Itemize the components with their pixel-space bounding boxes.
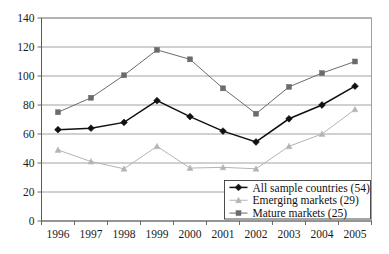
data-point-marker-square	[89, 95, 94, 100]
data-point-marker-diamond	[88, 125, 95, 132]
legend-label: Mature markets (25)	[253, 207, 348, 220]
data-point-marker-diamond	[220, 128, 227, 135]
x-tick-label: 1998	[113, 228, 136, 240]
y-axis-ticks-group	[38, 18, 42, 221]
series-line	[58, 109, 355, 168]
data-point-marker-square	[353, 59, 358, 64]
y-tick-label: 120	[17, 41, 35, 53]
y-tick-label: 20	[23, 186, 35, 198]
x-tick-label: 1999	[146, 228, 169, 240]
y-tick-label: 0	[29, 215, 35, 227]
series-square	[56, 47, 358, 116]
data-point-marker-square	[320, 71, 325, 76]
chart-legend: All sample countries (54)Emerging market…	[225, 181, 371, 221]
data-point-marker-diamond	[352, 83, 359, 90]
data-point-marker-triangle	[154, 143, 160, 148]
series-line	[58, 50, 355, 114]
data-point-marker-square	[188, 57, 193, 62]
y-tick-label: 140	[17, 12, 35, 24]
series-group	[55, 47, 359, 171]
data-point-marker-triangle	[55, 147, 61, 152]
series-triangle	[55, 106, 358, 171]
x-tick-label: 2004	[311, 228, 334, 240]
data-point-marker-square	[236, 211, 241, 216]
data-point-marker-square	[56, 110, 61, 115]
x-tick-label: 2000	[179, 228, 202, 240]
y-tick-label: 100	[17, 70, 35, 82]
y-tick-label: 80	[23, 99, 35, 111]
x-tick-label: 2003	[278, 228, 301, 240]
data-point-marker-diamond	[319, 102, 326, 109]
data-point-marker-square	[122, 73, 127, 78]
data-point-marker-square	[155, 47, 160, 52]
data-point-marker-diamond	[55, 126, 62, 133]
y-axis-labels-group: 020406080100120140	[17, 12, 35, 227]
data-point-marker-diamond	[187, 113, 194, 120]
x-axis-ticks-group	[42, 221, 372, 225]
line-chart: 020406080100120140 199619971998199920002…	[0, 0, 389, 254]
data-point-marker-square	[287, 84, 292, 89]
data-point-marker-triangle	[352, 106, 358, 111]
x-tick-label: 1996	[47, 228, 70, 240]
x-tick-label: 2002	[245, 228, 268, 240]
legend-label: Emerging markets (29)	[253, 194, 360, 207]
x-tick-label: 1997	[80, 228, 103, 240]
legend-label: All sample countries (54)	[253, 182, 370, 195]
x-tick-label: 2005	[344, 228, 367, 240]
data-point-marker-square	[221, 86, 226, 91]
series-diamond	[55, 83, 359, 146]
x-tick-label: 2001	[212, 228, 235, 240]
y-tick-label: 40	[23, 157, 35, 169]
data-point-marker-square	[254, 111, 259, 116]
chart-canvas: 020406080100120140 199619971998199920002…	[0, 0, 389, 254]
x-axis-labels-group: 1996199719981999200020012002200320042005	[47, 228, 367, 240]
y-tick-label: 60	[23, 128, 35, 140]
